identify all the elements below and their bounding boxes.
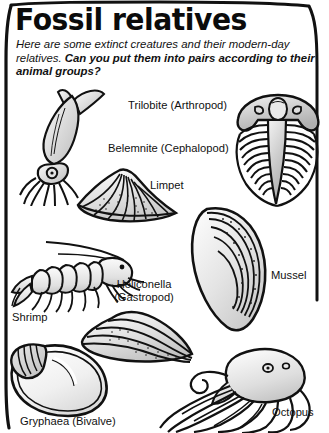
page-title: Fossil relatives [15, 3, 247, 37]
trilobite-illustration [228, 92, 328, 208]
caption-octopus: Octopus [272, 406, 314, 419]
caption-trilobite: Trilobite (Arthropod) [128, 99, 227, 112]
octopus-illustration [158, 342, 329, 433]
caption-shrimp: Shrimp [12, 311, 47, 324]
gryphaea-illustration [4, 336, 116, 420]
caption-heliconella: Heliconella (Gastropod) [98, 278, 190, 304]
intro-paragraph: Here are some extinct creatures and thei… [16, 38, 316, 79]
caption-belemnite: Belemnite (Cephalopod) [108, 142, 229, 155]
caption-mussel: Mussel [271, 269, 306, 282]
caption-gryphaea: Gryphaea (Bivalve) [20, 415, 116, 428]
fossil-relatives-page: Fossil relatives Here are some extinct c… [0, 0, 329, 433]
limpet-illustration [76, 165, 180, 233]
caption-limpet: Limpet [150, 179, 184, 192]
mussel-illustration [183, 203, 275, 335]
